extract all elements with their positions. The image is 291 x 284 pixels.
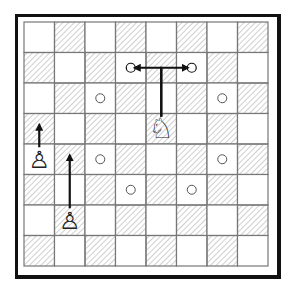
square-r3-c1 xyxy=(55,114,86,145)
square-r7-c4 xyxy=(146,236,177,267)
square-r0-c3 xyxy=(116,22,147,53)
square-r6-c5 xyxy=(177,205,208,236)
square-r7-c1 xyxy=(55,236,86,267)
square-r7-c3 xyxy=(116,236,147,267)
square-r1-c6 xyxy=(207,53,238,84)
square-r3-c3 xyxy=(116,114,147,145)
square-r7-c2 xyxy=(85,236,116,267)
square-r6-c6 xyxy=(207,205,238,236)
white-pawn-icon: ♙ xyxy=(59,207,81,235)
target-dot-icon xyxy=(126,63,135,72)
square-r2-c0 xyxy=(24,83,55,114)
square-r0-c5 xyxy=(177,22,208,53)
square-r0-c6 xyxy=(207,22,238,53)
square-r1-c0 xyxy=(24,53,55,84)
square-r3-c2 xyxy=(85,114,116,145)
target-circle-icon xyxy=(96,155,105,164)
white-pawn-icon: ♙ xyxy=(28,146,50,174)
square-r6-c3 xyxy=(116,205,147,236)
square-r1-c2 xyxy=(85,53,116,84)
square-r5-c4 xyxy=(146,175,177,206)
target-circle-icon xyxy=(218,155,227,164)
square-r6-c4 xyxy=(146,205,177,236)
square-r2-c7 xyxy=(238,83,269,114)
square-r0-c1 xyxy=(55,22,86,53)
square-r1-c7 xyxy=(238,53,269,84)
square-r0-c0 xyxy=(24,22,55,53)
square-r6-c2 xyxy=(85,205,116,236)
square-r4-c7 xyxy=(238,144,269,175)
square-r6-c7 xyxy=(238,205,269,236)
target-circle-icon xyxy=(187,185,196,194)
white-knight-icon: ♘ xyxy=(149,112,174,145)
square-r3-c5 xyxy=(177,114,208,145)
square-r0-c4 xyxy=(146,22,177,53)
square-r7-c0 xyxy=(24,236,55,267)
target-circle-icon xyxy=(96,94,105,103)
square-r5-c6 xyxy=(207,175,238,206)
square-r0-c7 xyxy=(238,22,269,53)
target-dot-icon xyxy=(187,63,196,72)
square-r5-c2 xyxy=(85,175,116,206)
square-r7-c6 xyxy=(207,236,238,267)
square-r0-c2 xyxy=(85,22,116,53)
square-r4-c3 xyxy=(116,144,147,175)
target-circle-icon xyxy=(218,94,227,103)
square-r2-c5 xyxy=(177,83,208,114)
square-r3-c6 xyxy=(207,114,238,145)
square-r6-c0 xyxy=(24,205,55,236)
square-r4-c4 xyxy=(146,144,177,175)
square-r2-c3 xyxy=(116,83,147,114)
target-circle-icon xyxy=(126,185,135,194)
square-r5-c7 xyxy=(238,175,269,206)
square-r1-c1 xyxy=(55,53,86,84)
square-r5-c0 xyxy=(24,175,55,206)
chess-board: ♘♙♙ xyxy=(0,0,291,284)
square-r4-c5 xyxy=(177,144,208,175)
square-r7-c7 xyxy=(238,236,269,267)
square-r3-c7 xyxy=(238,114,269,145)
square-r2-c1 xyxy=(55,83,86,114)
square-r7-c5 xyxy=(177,236,208,267)
